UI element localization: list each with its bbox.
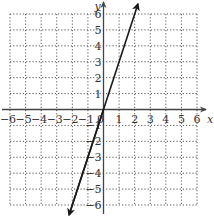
y-tick-label: 1: [95, 88, 102, 101]
x-tick-label: −4: [31, 113, 47, 126]
y-tick-label: 4: [95, 40, 102, 53]
x-axis-label: x: [207, 113, 214, 126]
x-tick-label: −6: [0, 113, 16, 126]
y-tick-label: −6: [85, 199, 101, 212]
y-tick-label: −5: [85, 183, 101, 196]
x-tick-label: 4: [162, 113, 169, 126]
x-tick-label: 2: [131, 113, 138, 126]
x-tick-label: 6: [194, 113, 201, 126]
y-tick-label: 5: [95, 24, 102, 37]
axes: xy: [2, 0, 214, 214]
x-tick-label: −5: [15, 113, 31, 126]
x-tick-label: 1: [116, 113, 123, 126]
x-tick-label: −3: [47, 113, 63, 126]
y-tick-label: 2: [95, 72, 102, 85]
x-tick-label: −2: [62, 113, 78, 126]
y-tick-label: 3: [95, 56, 102, 69]
x-tick-label: 5: [178, 113, 185, 126]
coordinate-plane: xy −6−5−4−3−2−10123456−6−5−4−3−2−1123456: [0, 0, 214, 217]
y-tick-label: 6: [95, 8, 102, 21]
x-tick-label: 3: [147, 113, 154, 126]
y-tick-label: −4: [85, 167, 101, 180]
